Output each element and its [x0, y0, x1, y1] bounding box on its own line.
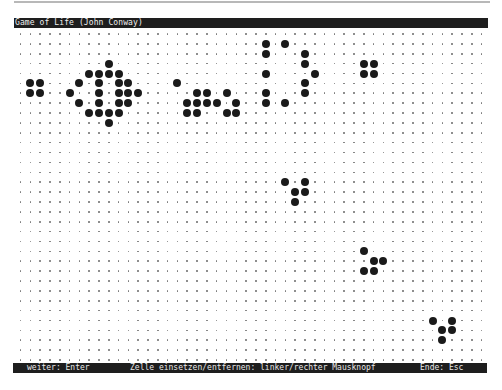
empty-cell[interactable] [442, 251, 444, 253]
empty-cell[interactable] [255, 73, 257, 75]
empty-cell[interactable] [432, 260, 434, 262]
empty-cell[interactable] [314, 310, 316, 312]
empty-cell[interactable] [236, 339, 238, 341]
empty-cell[interactable] [481, 290, 483, 292]
empty-cell[interactable] [481, 102, 483, 104]
empty-cell[interactable] [334, 241, 336, 243]
empty-cell[interactable] [147, 142, 149, 144]
empty-cell[interactable] [461, 162, 463, 164]
empty-cell[interactable] [265, 162, 267, 164]
empty-cell[interactable] [226, 231, 228, 233]
empty-cell[interactable] [196, 339, 198, 341]
empty-cell[interactable] [373, 142, 375, 144]
empty-cell[interactable] [481, 310, 483, 312]
empty-cell[interactable] [383, 172, 385, 174]
empty-cell[interactable] [285, 73, 287, 75]
empty-cell[interactable] [255, 310, 257, 312]
empty-cell[interactable] [255, 359, 257, 361]
empty-cell[interactable] [167, 320, 169, 322]
empty-cell[interactable] [167, 221, 169, 223]
empty-cell[interactable] [343, 73, 345, 75]
empty-cell[interactable] [481, 33, 483, 35]
empty-cell[interactable] [98, 349, 100, 351]
empty-cell[interactable] [402, 349, 404, 351]
empty-cell[interactable] [39, 73, 41, 75]
empty-cell[interactable] [324, 359, 326, 361]
empty-cell[interactable] [334, 102, 336, 104]
empty-cell[interactable] [39, 33, 41, 35]
empty-cell[interactable] [79, 251, 81, 253]
empty-cell[interactable] [402, 260, 404, 262]
empty-cell[interactable] [177, 339, 179, 341]
empty-cell[interactable] [128, 241, 130, 243]
empty-cell[interactable] [363, 300, 365, 302]
empty-cell[interactable] [206, 191, 208, 193]
empty-cell[interactable] [236, 221, 238, 223]
empty-cell[interactable] [98, 33, 100, 35]
empty-cell[interactable] [49, 33, 51, 35]
empty-cell[interactable] [20, 102, 22, 104]
empty-cell[interactable] [442, 132, 444, 134]
empty-cell[interactable] [137, 142, 139, 144]
empty-cell[interactable] [167, 310, 169, 312]
empty-cell[interactable] [157, 142, 159, 144]
empty-cell[interactable] [334, 231, 336, 233]
empty-cell[interactable] [481, 181, 483, 183]
empty-cell[interactable] [383, 290, 385, 292]
empty-cell[interactable] [265, 330, 267, 332]
empty-cell[interactable] [30, 132, 32, 134]
empty-cell[interactable] [206, 231, 208, 233]
empty-cell[interactable] [334, 290, 336, 292]
empty-cell[interactable] [353, 191, 355, 193]
empty-cell[interactable] [422, 211, 424, 213]
live-cell[interactable] [223, 89, 231, 97]
empty-cell[interactable] [285, 142, 287, 144]
empty-cell[interactable] [471, 241, 473, 243]
empty-cell[interactable] [59, 290, 61, 292]
empty-cell[interactable] [285, 92, 287, 94]
empty-cell[interactable] [216, 339, 218, 341]
empty-cell[interactable] [334, 53, 336, 55]
empty-cell[interactable] [88, 142, 90, 144]
empty-cell[interactable] [314, 181, 316, 183]
empty-cell[interactable] [353, 280, 355, 282]
empty-cell[interactable] [98, 221, 100, 223]
empty-cell[interactable] [432, 310, 434, 312]
empty-cell[interactable] [226, 142, 228, 144]
empty-cell[interactable] [79, 191, 81, 193]
empty-cell[interactable] [471, 330, 473, 332]
empty-cell[interactable] [88, 310, 90, 312]
empty-cell[interactable] [167, 270, 169, 272]
empty-cell[interactable] [206, 112, 208, 114]
empty-cell[interactable] [216, 191, 218, 193]
empty-cell[interactable] [137, 280, 139, 282]
empty-cell[interactable] [285, 191, 287, 193]
empty-cell[interactable] [236, 320, 238, 322]
empty-cell[interactable] [245, 102, 247, 104]
empty-cell[interactable] [226, 280, 228, 282]
empty-cell[interactable] [471, 251, 473, 253]
empty-cell[interactable] [412, 191, 414, 193]
empty-cell[interactable] [128, 221, 130, 223]
empty-cell[interactable] [206, 330, 208, 332]
empty-cell[interactable] [383, 221, 385, 223]
empty-cell[interactable] [20, 201, 22, 203]
empty-cell[interactable] [324, 300, 326, 302]
empty-cell[interactable] [481, 112, 483, 114]
empty-cell[interactable] [294, 112, 296, 114]
empty-cell[interactable] [373, 122, 375, 124]
empty-cell[interactable] [128, 320, 130, 322]
empty-cell[interactable] [49, 349, 51, 351]
empty-cell[interactable] [108, 339, 110, 341]
empty-cell[interactable] [39, 122, 41, 124]
empty-cell[interactable] [353, 201, 355, 203]
empty-cell[interactable] [432, 201, 434, 203]
empty-cell[interactable] [334, 92, 336, 94]
empty-cell[interactable] [196, 33, 198, 35]
empty-cell[interactable] [383, 191, 385, 193]
live-cell[interactable] [193, 99, 201, 107]
empty-cell[interactable] [196, 132, 198, 134]
empty-cell[interactable] [304, 270, 306, 272]
empty-cell[interactable] [285, 251, 287, 253]
empty-cell[interactable] [69, 349, 71, 351]
